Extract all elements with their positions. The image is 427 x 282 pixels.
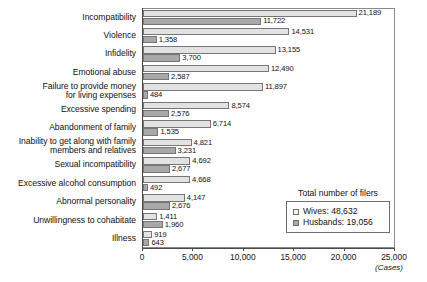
bar-husbands bbox=[143, 91, 148, 98]
bar-value-label: 2,676 bbox=[172, 202, 191, 210]
x-tick-label: 25,000 bbox=[381, 253, 407, 262]
bar-wives bbox=[143, 10, 357, 17]
bar-husbands bbox=[143, 239, 149, 246]
category-label: Failure to provide money for living expe… bbox=[43, 82, 136, 101]
bar-value-label: 14,531 bbox=[291, 28, 314, 36]
category-label: Sexual incompatibility bbox=[54, 160, 136, 169]
bar-husbands bbox=[143, 165, 170, 172]
bar-husbands bbox=[143, 128, 158, 135]
bar-value-label: 4,821 bbox=[194, 139, 213, 147]
bar-value-label: 6,714 bbox=[213, 120, 232, 128]
category-label: Unwillingness to cohabitate bbox=[33, 216, 136, 225]
bar-value-label: 1,960 bbox=[165, 221, 184, 229]
bar-value-label: 484 bbox=[150, 91, 162, 99]
legend-item-label: Wives: 48,632 bbox=[303, 206, 357, 217]
x-tick-label: 15,000 bbox=[280, 253, 306, 262]
category-axis-labels: IncompatibilityViolenceInfidelityEmotion… bbox=[0, 8, 139, 248]
bar-husbands bbox=[143, 73, 169, 80]
bar-husbands bbox=[143, 36, 157, 43]
bar-husbands bbox=[143, 18, 261, 25]
x-axis-line bbox=[142, 248, 395, 249]
bar-husbands bbox=[143, 221, 163, 228]
bar-value-label: 3,231 bbox=[178, 147, 197, 155]
bar-husbands bbox=[143, 54, 180, 61]
x-tick-mark bbox=[192, 248, 193, 251]
legend-swatch-husbands bbox=[293, 220, 299, 226]
bar-value-label: 643 bbox=[151, 239, 163, 247]
bar-value-label: 8,574 bbox=[231, 102, 250, 110]
bar-husbands bbox=[143, 184, 148, 191]
grouped-bar-chart: IncompatibilityViolenceInfidelityEmotion… bbox=[0, 0, 427, 282]
category-label: Infidelity bbox=[105, 49, 136, 58]
bar-value-label: 4,668 bbox=[192, 176, 211, 184]
bar-wives bbox=[143, 65, 269, 72]
bar-value-label: 2,576 bbox=[171, 110, 190, 118]
bar-value-label: 1,535 bbox=[160, 128, 179, 136]
category-label: Abandonment of family bbox=[49, 123, 136, 132]
bar-value-label: 2,677 bbox=[172, 165, 191, 173]
bar-value-label: 13,155 bbox=[278, 46, 301, 54]
category-label: Excessive spending bbox=[61, 105, 136, 114]
legend-item-label: Husbands: 19,056 bbox=[303, 217, 373, 228]
x-tick-label: 10,000 bbox=[230, 253, 256, 262]
category-label: Inability to get along with family membe… bbox=[19, 137, 136, 156]
bar-value-label: 4,692 bbox=[192, 157, 211, 165]
bar-wives bbox=[143, 213, 157, 220]
x-tick-mark bbox=[243, 248, 244, 251]
category-label: Illness bbox=[112, 234, 136, 243]
bar-value-label: 12,490 bbox=[271, 65, 294, 73]
category-label: Emotional abuse bbox=[73, 68, 136, 77]
bar-husbands bbox=[143, 147, 176, 154]
bar-value-label: 1,358 bbox=[159, 36, 178, 44]
x-tick-mark bbox=[344, 248, 345, 251]
bar-value-label: 21,189 bbox=[359, 9, 382, 17]
bar-value-label: 11,722 bbox=[263, 17, 285, 25]
legend-box: Wives: 48,632Husbands: 19,056 bbox=[286, 201, 390, 233]
x-tick-label: 20,000 bbox=[331, 253, 357, 262]
bar-wives bbox=[143, 46, 276, 53]
legend-item: Wives: 48,632 bbox=[293, 206, 384, 217]
x-axis-unit-label: (Cases) bbox=[375, 263, 403, 272]
legend-item: Husbands: 19,056 bbox=[293, 217, 384, 228]
bar-husbands bbox=[143, 110, 169, 117]
category-label: Abnormal personality bbox=[56, 197, 136, 206]
x-tick-label: 0 bbox=[140, 253, 145, 262]
bar-value-label: 3,700 bbox=[182, 54, 201, 62]
category-label: Violence bbox=[104, 31, 136, 40]
x-tick-label: 5,000 bbox=[182, 253, 203, 262]
legend: Total number of filers Wives: 48,632Husb… bbox=[286, 188, 390, 233]
bar-wives bbox=[143, 176, 190, 183]
bar-value-label: 11,897 bbox=[265, 83, 287, 91]
x-tick-mark bbox=[293, 248, 294, 251]
bar-husbands bbox=[143, 202, 170, 209]
x-tick-mark bbox=[142, 248, 143, 251]
category-label: Excessive alcohol consumption bbox=[18, 179, 136, 188]
legend-swatch-wives bbox=[293, 209, 299, 215]
bar-value-label: 492 bbox=[150, 184, 162, 192]
x-tick-mark bbox=[394, 248, 395, 251]
legend-title: Total number of filers bbox=[286, 188, 390, 198]
category-label: Incompatibility bbox=[82, 13, 136, 22]
bar-value-label: 1,411 bbox=[159, 213, 177, 221]
bar-value-label: 2,587 bbox=[171, 73, 190, 81]
